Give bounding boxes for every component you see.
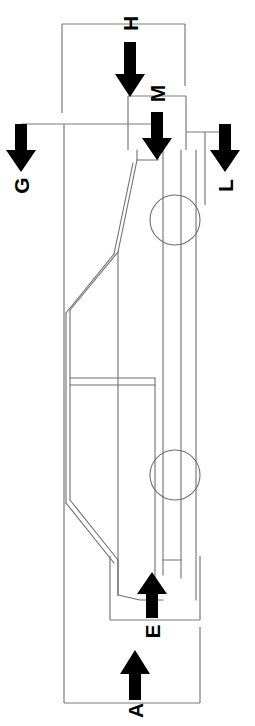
dimension-label-e-text: E — [142, 621, 163, 643]
arrow-l — [210, 124, 240, 172]
dimension-label-g: G — [10, 175, 32, 197]
front-wheel — [150, 195, 200, 245]
arrow-g — [6, 124, 36, 172]
diagram-canvas — [0, 0, 255, 726]
dimension-label-e: E — [141, 621, 163, 643]
dimension-label-g-text: G — [11, 175, 32, 197]
arrow-e — [137, 572, 167, 618]
dimension-label-a-text: A — [125, 700, 146, 722]
dimension-label-m: M — [146, 83, 168, 105]
dimension-extension-lines — [22, 24, 226, 703]
arrow-m — [142, 112, 172, 160]
dimension-label-l: L — [214, 175, 236, 197]
dimension-diagram: H M G L E A — [0, 0, 255, 726]
dimension-label-l-text: L — [215, 175, 236, 197]
dimension-label-a: A — [124, 700, 146, 722]
rear-window-slant — [70, 500, 118, 560]
dimension-label-h-text: H — [120, 13, 141, 35]
arrow-h — [115, 42, 145, 97]
rear-window-slant-inner — [66, 503, 114, 563]
vehicle-outline — [66, 148, 200, 600]
dimension-label-h: H — [119, 13, 141, 35]
hood-line — [118, 160, 137, 252]
windshield-slant — [70, 252, 118, 310]
hood-line-inner — [114, 163, 133, 254]
windshield-slant-inner — [66, 254, 114, 313]
dimension-label-m-text: M — [147, 83, 168, 105]
rear-wheel — [150, 450, 200, 500]
arrow-a — [120, 650, 150, 700]
